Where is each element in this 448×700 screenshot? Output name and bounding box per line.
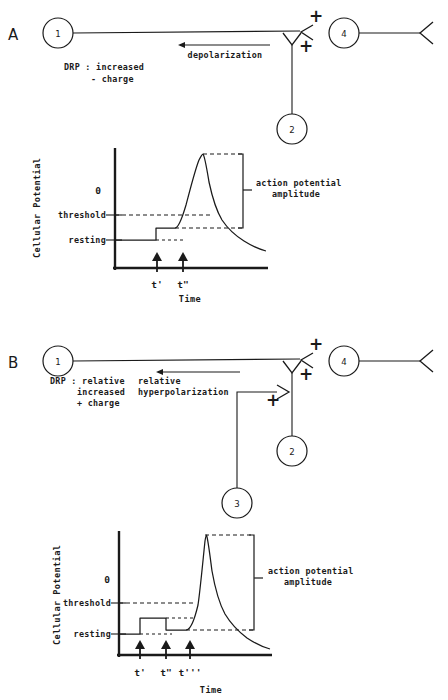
- node-1-label: 1: [55, 357, 60, 367]
- chart-b-ytick-0: 0: [104, 574, 110, 585]
- axon-4-terminal-fork: [420, 22, 433, 44]
- chart-b-xtick-arrowhead-2: [161, 640, 171, 649]
- chart-b-xtick-label-3: t''': [179, 667, 202, 678]
- chart-a-amplitude-label-line1: action potential: [256, 178, 341, 188]
- chart-a-ytick-0: 0: [95, 185, 101, 196]
- chart-a-amplitude-bracket: [238, 154, 243, 228]
- panel-b-drp-line2: increased: [77, 387, 125, 397]
- chart-b-trace: [119, 535, 270, 649]
- chart-a-ytick-resting: resting: [69, 235, 106, 245]
- node-4-label: 4: [341, 357, 346, 367]
- panel-a-letter: A: [8, 26, 19, 44]
- panel-b-arrow-label-line1: relative: [138, 376, 181, 386]
- synapse-plus-upper: +: [309, 334, 323, 354]
- chart-a-xtick-arrowhead-1: [152, 252, 162, 261]
- chart-a-xlabel: Time: [179, 294, 201, 304]
- panel-b-chart: Cellular Potential 0 threshold resting a…: [52, 531, 353, 695]
- depolarization-label: depolarization: [188, 50, 263, 60]
- chart-a-xtick-label-2: t": [177, 279, 188, 290]
- figure-canvas: A 1 depolarization DRP : increased - cha…: [0, 0, 448, 700]
- chart-b-amplitude-label-line1: action potential: [268, 566, 353, 576]
- panel-b-drp-line1: DRP : relative: [50, 376, 125, 386]
- panel-a-drp-line2: - charge: [91, 74, 134, 84]
- panel-a-chart: Cellular Potential 0 threshold resting a…: [32, 148, 341, 304]
- panel-a: A 1 depolarization DRP : increased - cha…: [8, 6, 433, 304]
- panel-b-drp-line3: + charge: [77, 398, 120, 408]
- chart-b-ylabel: Cellular Potential: [52, 545, 62, 645]
- axon-1-to-synapse: [73, 31, 300, 33]
- panel-a-drp-line1: DRP : increased: [64, 62, 144, 72]
- panel-b-arrow-label-line2: hyperpolarization: [138, 387, 229, 397]
- chart-b-amplitude-label-line2: amplitude: [284, 577, 332, 587]
- depolarization-arrow-head: [178, 42, 185, 48]
- axon-1-to-synapse: [73, 359, 300, 361]
- chart-a-xtick-label-1: t': [151, 279, 162, 290]
- neuron-potential-figure: A 1 depolarization DRP : increased - cha…: [0, 0, 448, 700]
- chart-b-xtick-arrowhead-1: [135, 640, 145, 649]
- synapse-plus-from-3: +: [266, 390, 280, 410]
- synapse-plus-lower: +: [299, 36, 313, 56]
- chart-b-ytick-threshold: threshold: [63, 598, 111, 608]
- node-2-label: 2: [289, 125, 294, 135]
- synapse-plus-mid: +: [299, 364, 313, 384]
- chart-b-xtick-label-1: t': [134, 667, 145, 678]
- chart-a-ytick-threshold: threshold: [58, 210, 106, 220]
- panel-b-circuit: 1 relative hyperpolarization DRP : relat…: [43, 334, 433, 518]
- chart-a-xtick-arrowhead-2: [178, 252, 188, 261]
- synapse-plus-upper: +: [309, 6, 323, 26]
- node-1-label: 1: [55, 29, 60, 39]
- panel-b-letter: B: [8, 354, 18, 372]
- node-4-label: 4: [341, 29, 346, 39]
- axon-4-terminal-fork: [420, 350, 433, 372]
- chart-b-ytick-resting: resting: [74, 629, 111, 639]
- chart-a-ylabel: Cellular Potential: [32, 158, 42, 258]
- chart-b-xlabel: Time: [200, 685, 222, 695]
- hyperpolarization-arrow-head: [156, 369, 163, 375]
- panel-a-circuit: 1 depolarization DRP : increased - charg…: [43, 6, 433, 144]
- node-2-label: 2: [289, 447, 294, 457]
- chart-b-xtick-label-2: t": [160, 667, 171, 678]
- panel-b: B 1 relative hyperpolarization DRP : rel…: [8, 334, 433, 695]
- chart-b-amplitude-bracket: [249, 535, 254, 630]
- node-3-label: 3: [234, 499, 239, 509]
- chart-b-xtick-arrowhead-3: [185, 640, 195, 649]
- chart-a-amplitude-label-line2: amplitude: [272, 189, 320, 199]
